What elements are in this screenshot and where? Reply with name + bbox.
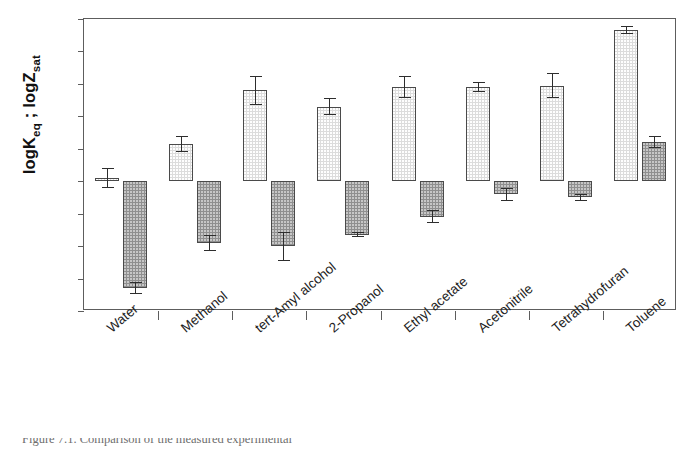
error-bar [478, 82, 479, 92]
error-bar-cap-bottom [575, 200, 587, 201]
y-axis-title-seg1: logK [20, 137, 38, 174]
error-bar-cap-top [575, 194, 587, 195]
error-bar-cap-bottom [399, 97, 411, 98]
error-bar-cap-bottom [176, 151, 188, 152]
y-tick-mark [78, 246, 84, 247]
error-bar-cap-bottom [324, 114, 336, 115]
y-tick-mark [78, 279, 84, 280]
x-tick-mark [529, 311, 530, 320]
error-bar [283, 232, 284, 261]
y-axis-title: logKeq ; logZsat [20, 0, 41, 230]
error-bar-cap-top [399, 76, 411, 77]
error-bar-cap-bottom [352, 236, 364, 237]
x-tick-mark [603, 311, 604, 320]
error-bar [107, 168, 108, 187]
error-bar-cap-top [352, 232, 364, 233]
bar-logZsat-2-propanol [345, 181, 369, 235]
error-bar-cap-bottom [250, 104, 262, 105]
error-bar-cap-top [547, 73, 559, 74]
figure-caption: Figure 7.1. Comparison of the measured e… [0, 438, 689, 450]
bar-logZsat-methanol [197, 181, 221, 243]
y-tick-mark [78, 181, 84, 182]
error-bar-cap-top [176, 136, 188, 137]
error-bar-cap-bottom [204, 250, 216, 251]
error-bar [432, 210, 433, 223]
y-tick-mark [78, 116, 84, 117]
error-bar [552, 73, 553, 99]
error-bar-cap-bottom [130, 293, 142, 294]
error-bar [357, 232, 358, 237]
error-bar-cap-bottom [278, 260, 290, 261]
error-bar-cap-bottom [501, 200, 513, 201]
y-tick-mark [78, 311, 84, 312]
error-bar-cap-bottom [473, 91, 485, 92]
error-bar [135, 282, 136, 294]
bar-logZsat-toluene [642, 142, 666, 181]
y-tick-mark [78, 51, 84, 52]
x-tick-mark [381, 311, 382, 320]
error-bar-cap-bottom [102, 187, 114, 188]
y-axis-title-seg2: ; logZ [20, 72, 38, 123]
error-bar [506, 188, 507, 201]
error-bar-cap-bottom [621, 33, 633, 34]
bar-logKeq-tetrahydrofuran [540, 86, 564, 182]
bar-logKeq-ethyl-acetate [392, 87, 416, 181]
chart-figure: logKeq ; logZsat 543210-1-2-3-4 WaterMet… [0, 0, 689, 450]
y-axis-title-sub1: eq [30, 123, 42, 137]
error-bar-cap-bottom [649, 147, 661, 148]
y-tick-mark [78, 84, 84, 85]
y-tick-mark [78, 149, 84, 150]
bar-logKeq-2-propanol [317, 107, 341, 182]
figure-caption-text: Figure 7.1. Comparison of the measured e… [0, 438, 689, 447]
error-bar-cap-top [102, 168, 114, 169]
error-bar-cap-top [324, 98, 336, 99]
x-tick-mark [158, 311, 159, 320]
error-bar [580, 194, 581, 200]
error-bar-cap-top [621, 26, 633, 27]
error-bar [209, 235, 210, 251]
error-bar-cap-top [427, 210, 439, 211]
error-bar-cap-top [278, 232, 290, 233]
error-bar-cap-top [501, 188, 513, 189]
x-tick-mark [232, 311, 233, 320]
error-bar [654, 136, 655, 148]
bar-logKeq-toluene [614, 30, 638, 181]
bar-logZsat-water [123, 181, 147, 288]
error-bar-cap-top [649, 136, 661, 137]
error-bar [626, 26, 627, 34]
error-bar-cap-bottom [547, 97, 559, 98]
error-bar-cap-top [204, 235, 216, 236]
bar-logKeq-acetonitrile [466, 87, 490, 181]
error-bar [255, 76, 256, 105]
error-bar-cap-bottom [427, 222, 439, 223]
error-bar-cap-top [130, 282, 142, 283]
error-bar-cap-top [473, 82, 485, 83]
x-tick-mark [455, 311, 456, 320]
error-bar [404, 76, 405, 99]
y-axis-title-sub2: sat [30, 55, 42, 72]
error-bar [329, 98, 330, 114]
error-bar [181, 136, 182, 152]
y-tick-mark [78, 214, 84, 215]
x-tick-mark [306, 311, 307, 320]
y-tick-mark [78, 19, 84, 20]
plot-area: 543210-1-2-3-4 [83, 18, 676, 310]
error-bar-cap-top [250, 76, 262, 77]
